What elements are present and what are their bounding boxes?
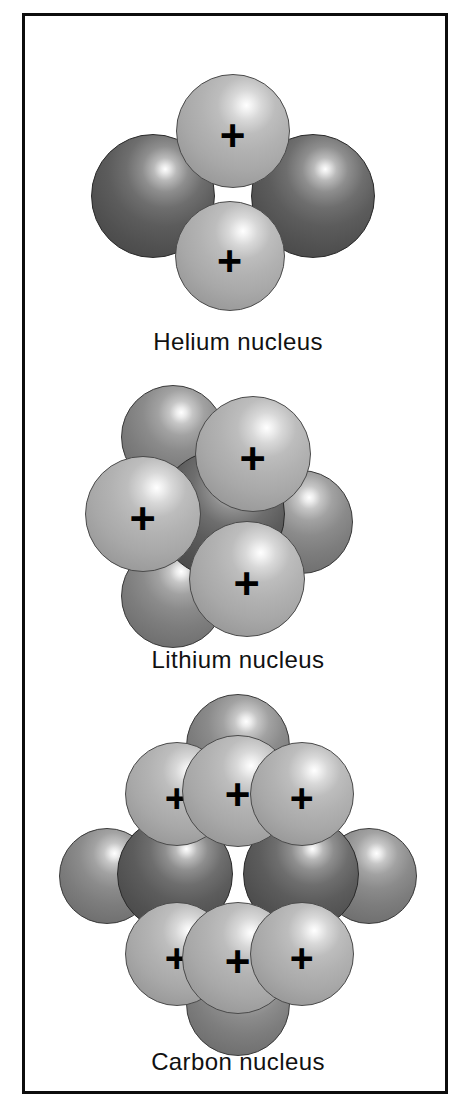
positive-charge-icon: + bbox=[217, 239, 242, 282]
positive-charge-icon: + bbox=[290, 938, 314, 979]
positive-charge-icon: + bbox=[220, 114, 246, 158]
nuclei-diagram: ++ Helium nucleus +++ Lithium nucleus ++… bbox=[0, 0, 470, 1116]
positive-charge-icon: + bbox=[290, 778, 314, 819]
panel-carbon: ++++++ Carbon nucleus bbox=[25, 716, 451, 1038]
diagram-frame: ++ Helium nucleus +++ Lithium nucleus ++… bbox=[22, 13, 448, 1094]
helium-nucleus-illustration: ++ bbox=[25, 46, 451, 316]
helium-nucleus-label: Helium nucleus bbox=[25, 328, 451, 356]
positive-charge-icon: + bbox=[234, 561, 260, 606]
carbon-nucleus-illustration: ++++++ bbox=[25, 716, 451, 1038]
panel-lithium: +++ Lithium nucleus bbox=[25, 374, 451, 636]
lithium-nucleus-illustration: +++ bbox=[25, 374, 451, 636]
positive-charge-icon: + bbox=[240, 436, 266, 481]
positive-charge-icon: + bbox=[130, 496, 156, 541]
positive-charge-icon: + bbox=[225, 940, 251, 984]
lithium-nucleus-label: Lithium nucleus bbox=[25, 646, 451, 674]
positive-charge-icon: + bbox=[225, 773, 251, 817]
panel-helium: ++ Helium nucleus bbox=[25, 46, 451, 316]
